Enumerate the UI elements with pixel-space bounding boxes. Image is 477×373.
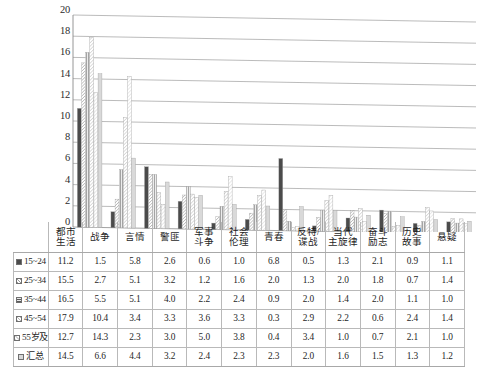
table-cell: 1.4	[430, 272, 465, 291]
legend-swatch-icon	[14, 335, 20, 341]
table-cell: 1.0	[222, 253, 257, 272]
table-cell: 17.9	[48, 310, 83, 329]
bar-25~34-都市生活	[82, 63, 86, 227]
table-column-header-0: 都市生活	[48, 222, 83, 253]
table-row: 25~3415.52.75.13.21.21.62.01.32.01.80.71…	[14, 272, 465, 291]
table-cell: 0.6	[360, 310, 395, 329]
bar-55岁及以上-战争	[128, 76, 132, 228]
table-cell: 2.4	[222, 291, 257, 310]
table-row: 15~2411.21.55.82.60.61.06.80.51.32.10.91…	[14, 253, 465, 272]
table-cell: 1.2	[430, 348, 465, 367]
table-cell: 5.5	[83, 291, 118, 310]
table-cell: 3.2	[152, 272, 187, 291]
column-header-line2: 励志	[361, 237, 395, 247]
gridline-8	[73, 142, 476, 149]
table-cell: 1.5	[83, 253, 118, 272]
table-cell: 5.1	[118, 291, 153, 310]
table-cell: 6.6	[83, 348, 118, 367]
column-header-line2: 故事	[396, 237, 430, 247]
table-cell: 0.3	[256, 310, 291, 329]
table-cell: 5.8	[118, 253, 153, 272]
table-cell: 0.9	[395, 253, 430, 272]
table-row-label-3: 45~54	[14, 310, 49, 329]
legend-swatch-icon	[16, 259, 22, 265]
table-row-label-5: 汇总	[14, 348, 49, 367]
table-cell: 2.4	[395, 310, 430, 329]
table-cell: 0.7	[360, 329, 395, 348]
bar-group-战争	[111, 76, 136, 228]
gridline-10	[73, 121, 476, 128]
table-cell: 1.8	[360, 272, 395, 291]
table-cell: 4.4	[118, 348, 153, 367]
bar-汇总-战争	[132, 158, 136, 228]
table-cell: 2.4	[187, 348, 222, 367]
legend-swatch-icon	[16, 316, 22, 322]
table-cell: 2.3	[222, 348, 257, 367]
table-cell: 2.0	[326, 272, 361, 291]
table-cell: 2.2	[326, 310, 361, 329]
chart-page: 02468101214161820 都市生活战争言情警匪军事斗争社会伦理青春反特…	[0, 0, 477, 373]
table-column-header-7: 反特/谍战	[291, 222, 326, 253]
chart-plot-area: 02468101214161820	[0, 0, 477, 232]
gridline-20	[73, 15, 476, 22]
table-body: 15~2411.21.55.82.60.61.06.80.51.32.10.91…	[14, 253, 465, 367]
table-cell: 2.1	[360, 253, 395, 272]
bar-汇总-都市生活	[98, 74, 102, 228]
table-cell: 4.0	[152, 291, 187, 310]
table-row: 35~4416.55.55.14.02.22.40.92.01.42.01.11…	[14, 291, 465, 310]
table-cell: 6.8	[256, 253, 291, 272]
table-cell: 3.3	[222, 310, 257, 329]
table-cell: 0.5	[291, 253, 326, 272]
table-cell: 1.0	[430, 291, 465, 310]
table-header-row: 都市生活战争言情警匪军事斗争社会伦理青春反特/谍战当代主旋律奋斗励志历史故事悬疑	[14, 222, 465, 253]
table-cell: 1.0	[430, 329, 465, 348]
table-cell: 1.3	[395, 348, 430, 367]
column-header-line1: 悬疑	[430, 232, 464, 242]
table-corner-cell	[14, 222, 49, 253]
table-cell: 2.0	[291, 348, 326, 367]
table-column-header-10: 历史故事	[395, 222, 430, 253]
gridline-14	[73, 79, 476, 86]
column-header-line2: 斗争	[187, 237, 221, 247]
table-cell: 5.1	[118, 272, 153, 291]
column-header-line2: 主旋律	[326, 237, 360, 247]
row-label-text: 15~24	[24, 256, 46, 266]
row-label-text: 25~34	[24, 275, 46, 285]
table-cell: 1.5	[360, 348, 395, 367]
row-label-text: 55岁及以上	[22, 332, 48, 342]
table-cell: 2.3	[118, 329, 153, 348]
column-header-line1: 言情	[118, 232, 152, 242]
gridline-18	[73, 36, 476, 43]
table-cell: 5.0	[187, 329, 222, 348]
table-cell: 0.9	[256, 291, 291, 310]
table-head: 都市生活战争言情警匪军事斗争社会伦理青春反特/谍战当代主旋律奋斗励志历史故事悬疑	[14, 222, 465, 253]
legend-swatch-icon	[16, 297, 22, 303]
bar-15~24-言情	[145, 167, 149, 228]
table-column-header-6: 青春	[256, 222, 291, 253]
table-cell: 2.0	[291, 291, 326, 310]
table-cell: 10.4	[83, 310, 118, 329]
bar-45~54-战争	[123, 118, 127, 228]
row-label-text: 35~44	[24, 294, 46, 304]
column-header-line2: 谍战	[292, 237, 326, 247]
table-row-label-2: 35~44	[14, 291, 49, 310]
table-row-label-1: 25~34	[14, 272, 49, 291]
table-cell: 2.7	[83, 272, 118, 291]
table-cell: 2.6	[152, 253, 187, 272]
table-column-header-4: 军事斗争	[187, 222, 222, 253]
gridline-16	[73, 57, 476, 64]
bar-group-言情	[145, 167, 170, 229]
table-cell: 1.6	[326, 348, 361, 367]
table-row: 45~5417.910.43.43.33.63.30.32.92.20.62.4…	[14, 310, 465, 329]
column-header-line1: 青春	[257, 232, 291, 242]
table-cell: 16.5	[48, 291, 83, 310]
table-cell: 2.0	[360, 291, 395, 310]
table-cell: 1.3	[291, 272, 326, 291]
table-cell: 1.1	[395, 291, 430, 310]
table-row-label-0: 15~24	[14, 253, 49, 272]
table-column-header-3: 警匪	[152, 222, 187, 253]
table-column-header-11: 悬疑	[430, 222, 465, 253]
bar-chart-svg	[0, 0, 477, 232]
table-row: 汇总14.56.64.43.22.42.32.32.01.61.51.31.2	[14, 348, 465, 367]
table-cell: 3.6	[187, 310, 222, 329]
